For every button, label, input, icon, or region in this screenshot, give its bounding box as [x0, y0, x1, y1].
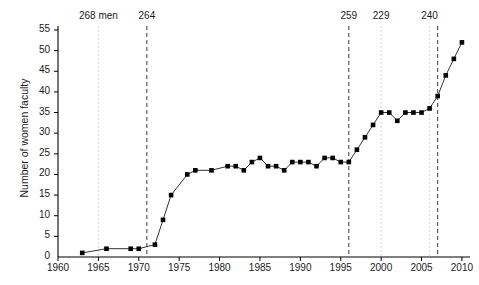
data-point-marker — [193, 168, 198, 173]
annotation-label: 229 — [357, 10, 405, 21]
data-point-marker — [209, 168, 214, 173]
data-point-marker — [104, 246, 109, 251]
plot-area: 0510152025303540455055196019651970197519… — [0, 0, 479, 285]
data-point-marker — [363, 135, 368, 140]
annotation-label: 240 — [406, 10, 454, 21]
data-point-marker — [403, 110, 408, 115]
data-point-marker — [128, 246, 133, 251]
data-point-marker — [371, 123, 376, 128]
y-tick-label: 35 — [28, 106, 50, 117]
data-point-marker — [347, 160, 352, 165]
x-tick-label: 1960 — [38, 262, 78, 273]
x-tick-label: 1995 — [321, 262, 361, 273]
data-point-marker — [355, 147, 360, 152]
y-tick-label: 45 — [28, 64, 50, 75]
x-tick-label: 1985 — [240, 262, 280, 273]
y-tick-label: 10 — [28, 209, 50, 220]
y-tick-label: 15 — [28, 188, 50, 199]
data-point-marker — [266, 164, 271, 169]
y-tick-label: 20 — [28, 167, 50, 178]
data-point-marker — [225, 164, 230, 169]
data-point-marker — [161, 218, 166, 223]
y-tick-label: 40 — [28, 85, 50, 96]
x-tick-label: 1975 — [159, 262, 199, 273]
data-point-marker — [314, 164, 319, 169]
data-point-marker — [282, 168, 287, 173]
data-point-marker — [452, 57, 457, 62]
data-point-marker — [322, 156, 327, 161]
x-tick-label: 1990 — [280, 262, 320, 273]
data-point-marker — [250, 160, 255, 165]
chart-svg — [0, 0, 479, 285]
y-tick-label: 55 — [28, 23, 50, 34]
y-tick-label: 50 — [28, 44, 50, 55]
annotation-label: 268 men — [74, 10, 122, 21]
data-point-marker — [460, 40, 465, 45]
data-point-marker — [443, 73, 448, 78]
data-point-marker — [298, 160, 303, 165]
data-point-marker — [136, 246, 141, 251]
data-point-marker — [153, 242, 158, 247]
data-point-marker — [169, 193, 174, 198]
data-point-marker — [290, 160, 295, 165]
data-point-marker — [338, 160, 343, 165]
data-point-marker — [185, 172, 190, 177]
data-point-marker — [379, 110, 384, 115]
data-point-marker — [427, 106, 432, 111]
y-tick-label: 5 — [28, 229, 50, 240]
data-point-marker — [419, 110, 424, 115]
data-line — [82, 42, 462, 253]
data-point-marker — [306, 160, 311, 165]
data-point-marker — [242, 168, 247, 173]
x-tick-label: 2005 — [402, 262, 442, 273]
x-tick-label: 1980 — [200, 262, 240, 273]
data-point-marker — [258, 156, 263, 161]
data-point-marker — [330, 156, 335, 161]
annotation-label: 264 — [123, 10, 171, 21]
x-tick-label: 1970 — [119, 262, 159, 273]
chart-container: Number of women faculty 0510152025303540… — [0, 0, 479, 285]
y-tick-label: 25 — [28, 147, 50, 158]
data-point-marker — [80, 251, 85, 256]
data-point-marker — [387, 110, 392, 115]
data-point-marker — [435, 94, 440, 99]
data-point-marker — [233, 164, 238, 169]
data-point-marker — [395, 119, 400, 124]
data-point-marker — [411, 110, 416, 115]
y-tick-label: 0 — [28, 250, 50, 261]
y-tick-label: 30 — [28, 126, 50, 137]
x-tick-label: 1965 — [78, 262, 118, 273]
data-point-marker — [274, 164, 279, 169]
x-tick-label: 2010 — [442, 262, 479, 273]
x-tick-label: 2000 — [361, 262, 401, 273]
